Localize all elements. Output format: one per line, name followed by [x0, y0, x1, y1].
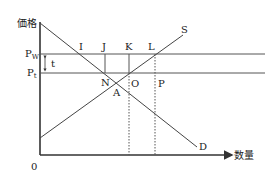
point-a-label: A — [112, 87, 121, 98]
point-o-label: O — [131, 78, 139, 89]
pw-label: PW — [25, 48, 40, 61]
tariff-diagram: 価格 数量 0 PW Pt t S D I J K L N O P A — [0, 0, 277, 175]
origin-label: 0 — [31, 161, 37, 172]
demand-label: D — [199, 141, 207, 152]
y-axis-label: 価格 — [17, 17, 37, 29]
point-i-label: I — [79, 41, 83, 52]
point-k-label: K — [125, 41, 133, 52]
point-j-label: J — [101, 41, 106, 52]
point-n-label: N — [101, 77, 110, 88]
tariff-label: t — [51, 58, 55, 69]
x-axis-label: 数量 — [234, 149, 254, 161]
point-l-label: L — [148, 41, 155, 52]
point-p-label: P — [158, 78, 165, 89]
pt-label: Pt — [27, 67, 37, 80]
supply-label: S — [181, 24, 188, 35]
